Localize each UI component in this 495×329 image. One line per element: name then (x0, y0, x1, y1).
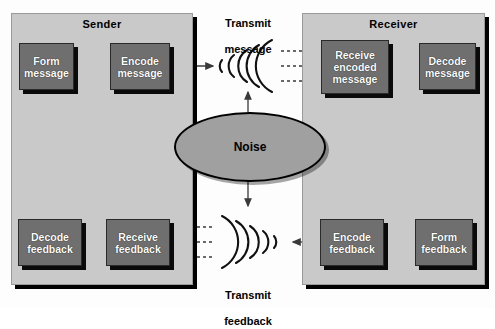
transmit-feedback-waves (222, 216, 276, 268)
box-form-feedback-label: Form feedback (421, 231, 467, 255)
transmit-feedback-label: Transmit feedback (200, 276, 296, 329)
sender-panel-title: Sender (12, 18, 192, 30)
transmit-message-label: Transmit message (200, 4, 296, 69)
box-form-message-label: Form message (24, 55, 69, 79)
noise-ellipse[interactable]: Noise (174, 112, 326, 182)
box-receive-encoded-message-label: Receive encoded message (333, 49, 378, 85)
box-encode-feedback-label: Encode feedback (329, 231, 375, 255)
box-receive-encoded-message[interactable]: Receive encoded message (321, 40, 389, 94)
box-encode-feedback[interactable]: Encode feedback (320, 219, 384, 266)
box-receive-feedback-label: Receive feedback (115, 231, 161, 255)
box-decode-message-label: Decode message (425, 55, 470, 79)
noise-label: Noise (234, 140, 267, 154)
box-receive-feedback[interactable]: Receive feedback (106, 219, 170, 266)
transmit-message-line1: Transmit (200, 17, 296, 30)
box-decode-message[interactable]: Decode message (419, 43, 476, 90)
transmit-message-line2: message (200, 43, 296, 56)
box-form-feedback[interactable]: Form feedback (415, 219, 473, 266)
box-form-message[interactable]: Form message (19, 43, 74, 90)
box-decode-feedback[interactable]: Decode feedback (18, 219, 82, 266)
box-decode-feedback-label: Decode feedback (27, 231, 73, 255)
transmit-feedback-line1: Transmit (200, 289, 296, 302)
box-encode-message[interactable]: Encode message (110, 43, 170, 90)
box-encode-message-label: Encode message (118, 55, 163, 79)
receiver-panel-title: Receiver (303, 18, 484, 30)
transmit-feedback-line2: feedback (200, 315, 296, 328)
